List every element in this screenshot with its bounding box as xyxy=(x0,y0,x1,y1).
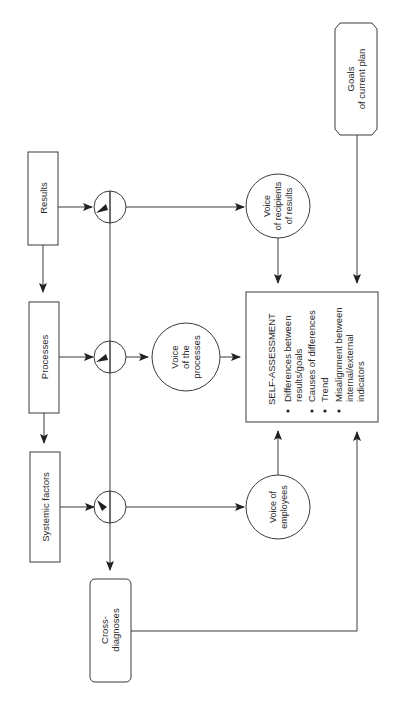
gauge-icon xyxy=(94,491,126,523)
voice-recipients-label-3: of results xyxy=(284,187,294,224)
voice-processes-label-2: of the xyxy=(180,345,191,369)
bullet-text: results/goals xyxy=(293,348,304,402)
arrow-cross-diagnoses-to-self-assessment xyxy=(131,432,357,631)
goals-label-2: of current plan xyxy=(356,49,367,110)
self-assessment-box: SELF-ASSESSMENT Differences between resu… xyxy=(246,292,378,422)
cross-diagnoses-label-1: Cross- xyxy=(99,616,110,644)
bullet-causes: Causes of differences xyxy=(306,310,317,413)
bullet-text: Misalignment between xyxy=(333,307,344,402)
processes-label: Processes xyxy=(39,335,50,380)
voice-recipients-label-2: of recipients xyxy=(273,181,283,230)
results-box: Results xyxy=(28,152,58,245)
systemic-factors-box: Systemic factors xyxy=(30,452,60,562)
bullet-text: internal/external xyxy=(344,334,355,402)
goals-box: Goals of current plan xyxy=(335,23,377,135)
self-assessment-title: SELF-ASSESSMENT xyxy=(266,313,277,405)
voice-recipients-label-1: Voice xyxy=(262,195,272,217)
bullet-text: Differences between xyxy=(282,316,293,402)
processes-box: Processes xyxy=(29,302,59,413)
voice-processes-circle: Voice of the processes xyxy=(152,323,220,391)
results-label: Results xyxy=(38,182,49,214)
voice-processes-label-1: Voice xyxy=(169,345,180,368)
bullet-text: Trend xyxy=(319,378,330,402)
voice-employees-circle: Voice of employees xyxy=(246,475,310,539)
cross-diagnoses-box: Cross- diagnoses xyxy=(90,579,131,682)
cross-diagnoses-label-2: diagnoses xyxy=(110,608,121,652)
bullet-text: indicators xyxy=(355,361,366,402)
systemic-factors-label: Systemic factors xyxy=(40,472,51,542)
voice-employees-label-2: employees xyxy=(279,485,289,529)
gauge-icon xyxy=(94,191,126,223)
goals-label-1: Goals xyxy=(345,66,356,91)
voice-employees-label-1: Voice of xyxy=(268,490,278,523)
voice-processes-label-3: processes xyxy=(191,335,202,379)
voice-recipients-circle: Voice of recipients of results xyxy=(246,174,310,238)
bullet-text: Causes of differences xyxy=(306,310,317,402)
diagram-canvas: Results Processes Systemic factors xyxy=(0,0,398,706)
gauge-icon xyxy=(94,341,126,373)
